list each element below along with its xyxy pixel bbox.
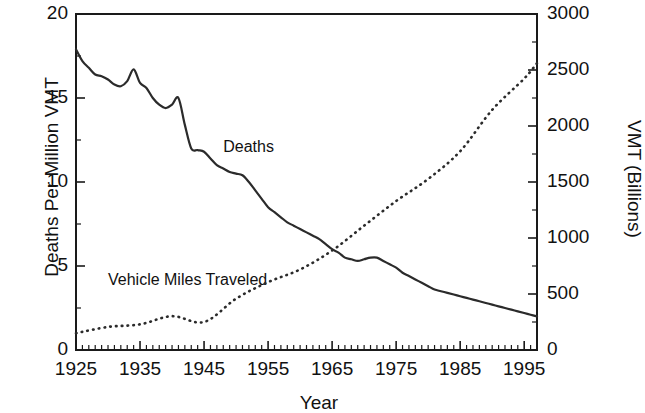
- series-line-vehicle-miles-traveled: [76, 63, 537, 333]
- series-line-deaths: [76, 49, 537, 316]
- axis-ticks: [76, 14, 537, 350]
- plot-frame: [76, 14, 537, 350]
